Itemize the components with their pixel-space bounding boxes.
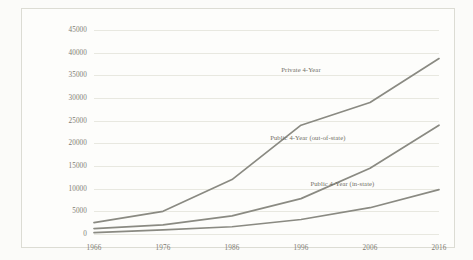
series-label: Public 4-Year (out-of-state) (270, 133, 345, 140)
gridline (94, 234, 439, 235)
series-line (94, 59, 439, 223)
series-label: Private 4-Year (281, 65, 320, 72)
x-axis-tick-label: 1976 (156, 244, 171, 252)
y-axis-tick-label: 10000 (69, 185, 87, 193)
y-axis-tick-label: 35000 (69, 71, 87, 79)
y-axis-tick-label: 20000 (69, 139, 87, 147)
plot-area: 0500010000150002000025000300003500040000… (94, 30, 439, 234)
y-axis-tick-label: 45000 (69, 26, 87, 34)
series-line (94, 125, 439, 228)
series-label: Public 4-Year (in-state) (310, 180, 374, 187)
y-axis-tick-label: 15000 (69, 162, 87, 170)
y-axis-tick-label: 0 (83, 230, 87, 238)
series-lines (94, 30, 439, 234)
x-axis-tick-label: 1966 (87, 244, 102, 252)
x-axis-tick-label: 1996 (294, 244, 309, 252)
y-axis-tick-label: 30000 (69, 94, 87, 102)
y-axis-tick-label: 25000 (69, 117, 87, 125)
y-axis-tick-label: 5000 (72, 207, 87, 215)
screenshot-root: 0500010000150002000025000300003500040000… (0, 0, 473, 260)
y-axis-tick-label: 40000 (69, 49, 87, 57)
x-axis-tick-label: 1986 (225, 244, 240, 252)
x-axis-tick-label: 2006 (363, 244, 378, 252)
x-axis-tick-label: 2016 (432, 244, 447, 252)
chart-frame: 0500010000150002000025000300003500040000… (21, 8, 455, 248)
